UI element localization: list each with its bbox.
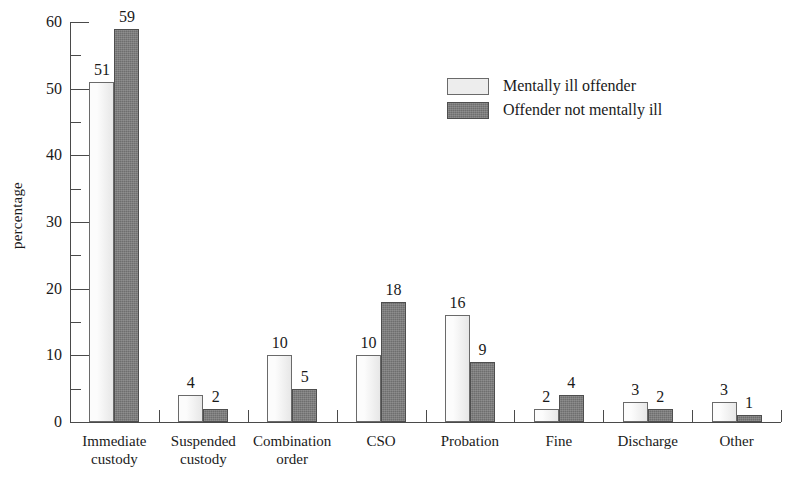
x-axis-category-label: Fine (514, 432, 603, 450)
x-axis-category-label-line: order (248, 450, 337, 468)
x-axis-category-label: Other (692, 432, 781, 450)
y-axis-tick-label: 30 (0, 214, 62, 230)
x-axis-category-label-line: custody (159, 450, 248, 468)
x-axis-category-label-line: Immediate (70, 432, 159, 450)
y-axis-tick (71, 422, 89, 423)
x-axis-tick (781, 410, 782, 422)
bar (356, 355, 381, 422)
bar (114, 29, 139, 422)
bar-chart: percentage 0102030405060 Immediatecustod… (0, 0, 790, 477)
x-axis-category-label-line: Discharge (603, 432, 692, 450)
y-axis-tick-label: 20 (0, 281, 62, 297)
y-axis-tick-label: 0 (0, 414, 62, 430)
legend-item: Offender not mentally ill (447, 98, 662, 122)
x-axis-category-label: Probation (426, 432, 515, 450)
bar (737, 415, 762, 422)
legend-label: Mentally ill offender (503, 78, 636, 94)
x-axis-category-label-line: custody (70, 450, 159, 468)
bar (559, 395, 584, 422)
x-axis-category-label-line: Suspended (159, 432, 248, 450)
x-axis-category-label: Suspendedcustody (159, 432, 248, 469)
bar (267, 355, 292, 422)
x-axis-category-label-line: CSO (337, 432, 426, 450)
legend-swatch (447, 102, 489, 119)
bar-value-label: 2 (195, 389, 236, 405)
x-axis-line (70, 422, 781, 423)
legend: Mentally ill offenderOffender not mental… (447, 74, 662, 122)
bar-value-label: 18 (373, 282, 414, 298)
bar (470, 362, 495, 422)
x-axis-category-label-line: Combination (248, 432, 337, 450)
bar-value-label: 1 (729, 395, 770, 411)
y-axis-tick-label: 10 (0, 347, 62, 363)
y-axis-tick-label: 40 (0, 147, 62, 163)
bar (623, 402, 648, 422)
legend-item: Mentally ill offender (447, 74, 662, 98)
bar (292, 389, 317, 422)
bar (534, 409, 559, 422)
x-axis-category-label-line: Probation (426, 432, 515, 450)
x-axis-category-label: Combinationorder (248, 432, 337, 469)
legend-swatch (447, 78, 489, 95)
bar-value-label: 10 (259, 335, 300, 351)
bar (648, 409, 673, 422)
x-axis-category-label-line: Fine (514, 432, 603, 450)
bar (203, 409, 228, 422)
bar (445, 315, 470, 422)
bar (89, 82, 114, 422)
bar-value-label: 5 (284, 369, 325, 385)
x-axis-category-label: Immediatecustody (70, 432, 159, 469)
x-axis-category-label: Discharge (603, 432, 692, 450)
x-axis-category-label-line: Other (692, 432, 781, 450)
x-axis-category-label: CSO (337, 432, 426, 450)
plot-area: 5159421051018169243231 (70, 22, 781, 422)
y-axis-tick-label: 60 (0, 14, 62, 30)
bar-value-label: 9 (462, 342, 503, 358)
legend-label: Offender not mentally ill (503, 102, 662, 118)
bar-value-label: 59 (106, 9, 147, 25)
bar-value-label: 2 (640, 389, 681, 405)
y-axis-tick-label: 50 (0, 81, 62, 97)
bar-value-label: 16 (437, 295, 478, 311)
bar (381, 302, 406, 422)
bar-value-label: 4 (551, 375, 592, 391)
